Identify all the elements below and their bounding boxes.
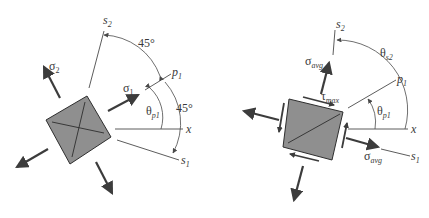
tau-left-arrow-icon: [279, 103, 284, 132]
sigma2-label: σ2: [49, 59, 59, 75]
sigma1-opposite-arrow-icon: [17, 149, 48, 167]
sigma-avg-top-label: σavg: [305, 54, 323, 70]
theta-p1-label: θp1: [146, 104, 160, 120]
sigma2-opposite-arrow-icon: [96, 162, 112, 193]
sigma1-label: σ1: [123, 81, 133, 97]
s1-axis-line: [117, 140, 179, 160]
s2-axis-line: [333, 30, 335, 55]
sigma-avg-right-label: σavg: [364, 149, 382, 165]
s1-axis-line: [381, 149, 410, 156]
arc-45-right: [165, 82, 181, 153]
tau-right-arrow-icon: [342, 123, 347, 148]
stress-transformation-diagram: s2 45° p1 σ1 σ2 θp1 45° x s1 s2 θs2: [0, 0, 429, 218]
p1-label: p1: [171, 65, 182, 81]
p1-label: p1: [396, 72, 407, 88]
arc-theta-p1: [368, 99, 376, 129]
s2-label: s2: [336, 17, 345, 33]
p1-axis-line: [348, 80, 396, 108]
sigma1-arrow-icon: [108, 95, 138, 111]
theta-s2-label: θs2: [380, 46, 393, 62]
angle-45-right-label: 45°: [176, 101, 193, 115]
sigma-avg-right-arrow-icon: [346, 138, 378, 147]
sigma-avg-bottom-arrow-icon: [294, 166, 303, 200]
p1-axis-line: [145, 74, 171, 90]
theta-p1-label: θp1: [377, 104, 391, 120]
right-panel-max-shear-element: s2 θs2 σavg p1 τmax θp1 x σavg s1: [244, 17, 420, 200]
s2-axis-line: [89, 31, 104, 88]
x-label: x: [410, 122, 417, 136]
arc-theta-p1: [150, 88, 163, 129]
x-label: x: [185, 122, 192, 136]
tau-max-label: τmax: [321, 89, 340, 105]
s1-label: s1: [411, 149, 420, 165]
s2-label: s2: [103, 13, 112, 29]
left-panel-principal-element: s2 45° p1 σ1 σ2 θp1 45° x s1: [17, 13, 193, 193]
angle-45-top-label: 45°: [138, 36, 155, 50]
sigma-avg-left-arrow-icon: [244, 111, 279, 120]
s1-label: s1: [181, 153, 190, 169]
